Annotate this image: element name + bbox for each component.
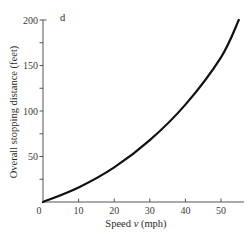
- y-axis-label: Overall stopping distance (feet): [8, 45, 20, 178]
- y-tick-label: 50: [28, 151, 38, 162]
- y-tick-label: 150: [23, 60, 38, 71]
- x-axis-ticks: 01020304050: [37, 199, 227, 217]
- x-tick-label: 30: [145, 205, 155, 216]
- x-tick-label: 0: [37, 205, 42, 216]
- x-axis-label: Speed v (mph): [105, 218, 167, 230]
- y-tick-label: 100: [23, 106, 38, 117]
- x-tick-label: 40: [180, 205, 190, 216]
- y-tick-label: 200: [23, 15, 38, 26]
- x-tick-label: 20: [109, 205, 119, 216]
- x-tick-label: 10: [74, 205, 84, 216]
- stopping-distance-curve: [43, 20, 239, 202]
- stopping-distance-chart: 50100150200 01020304050 d Speed v (mph) …: [0, 0, 250, 240]
- y-variable-label: d: [60, 12, 66, 23]
- x-tick-label: 50: [216, 205, 226, 216]
